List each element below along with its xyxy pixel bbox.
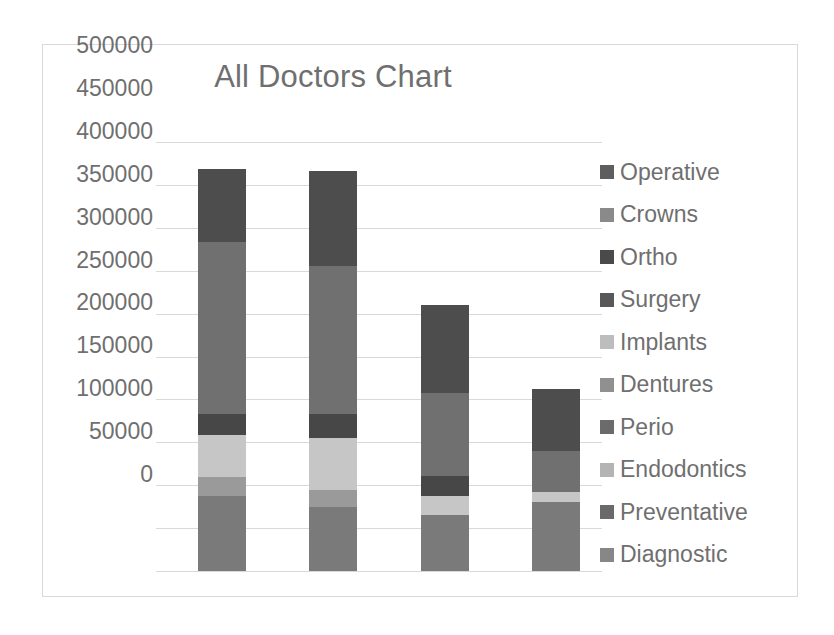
bar-column[interactable] [309, 171, 357, 571]
y-axis-tick-label: 50000 [43, 418, 153, 445]
y-axis-tick-label: 350000 [43, 160, 153, 187]
legend-item-label: Implants [620, 331, 707, 354]
chart-legend: OperativeCrownsOrthoSurgeryImplantsDentu… [600, 151, 790, 576]
bar-segment[interactable] [309, 490, 357, 507]
legend-item-label: Surgery [620, 288, 701, 311]
bar-segment[interactable] [309, 414, 357, 438]
legend-swatch-icon [600, 335, 614, 349]
bar-segment[interactable] [198, 477, 246, 496]
legend-item[interactable]: Endodontics [600, 449, 790, 492]
bar-segment[interactable] [421, 305, 469, 393]
y-axis-tick-label: 250000 [43, 246, 153, 273]
legend-swatch-icon [600, 293, 614, 307]
legend-swatch-icon [600, 548, 614, 562]
legend-swatch-icon [600, 378, 614, 392]
legend-item[interactable]: Surgery [600, 279, 790, 322]
legend-item[interactable]: Implants [600, 321, 790, 364]
bar-segment[interactable] [198, 435, 246, 476]
plot-area [156, 142, 602, 571]
bar-segment[interactable] [421, 515, 469, 571]
legend-item[interactable]: Diagnostic [600, 534, 790, 577]
chart-container: All Doctors Chart 5000004500004000003500… [42, 44, 798, 597]
y-axis-tick-label: 500000 [43, 32, 153, 59]
legend-swatch-icon [600, 250, 614, 264]
y-axis-tick-label: 150000 [43, 332, 153, 359]
legend-item-label: Preventative [620, 501, 748, 524]
legend-item[interactable]: Operative [600, 151, 790, 194]
y-axis-tick-label: 100000 [43, 375, 153, 402]
legend-item-label: Operative [620, 161, 720, 184]
legend-swatch-icon [600, 505, 614, 519]
legend-item-label: Diagnostic [620, 543, 727, 566]
bar-segment[interactable] [421, 476, 469, 497]
legend-item[interactable]: Ortho [600, 236, 790, 279]
bar-segment[interactable] [421, 393, 469, 476]
y-axis: 5000004500004000003500003000002500002000… [35, 45, 153, 474]
bar-column[interactable] [198, 169, 246, 571]
bar-column[interactable] [532, 389, 580, 571]
y-axis-tick-label: 450000 [43, 74, 153, 101]
legend-item-label: Ortho [620, 246, 678, 269]
legend-item-label: Crowns [620, 203, 698, 226]
bar-segment[interactable] [309, 507, 357, 571]
bar-segment[interactable] [309, 266, 357, 414]
legend-item[interactable]: Crowns [600, 194, 790, 237]
y-axis-tick-label: 300000 [43, 203, 153, 230]
legend-item[interactable]: Perio [600, 406, 790, 449]
legend-swatch-icon [600, 420, 614, 434]
bar-segment[interactable] [309, 438, 357, 489]
bar-segment[interactable] [198, 496, 246, 572]
legend-item-label: Dentures [620, 373, 713, 396]
gridline [156, 142, 602, 143]
bar-segment[interactable] [532, 492, 580, 502]
bar-segment[interactable] [421, 496, 469, 515]
legend-item[interactable]: Dentures [600, 364, 790, 407]
bar-segment[interactable] [532, 389, 580, 451]
legend-item-label: Perio [620, 416, 674, 439]
bar-segment[interactable] [532, 502, 580, 571]
legend-swatch-icon [600, 165, 614, 179]
bar-segment[interactable] [198, 169, 246, 242]
y-axis-tick-label: 200000 [43, 289, 153, 316]
gridline [156, 571, 602, 572]
bar-column[interactable] [421, 305, 469, 571]
legend-swatch-icon [600, 208, 614, 222]
bar-segment[interactable] [532, 451, 580, 492]
legend-item-label: Endodontics [620, 458, 747, 481]
bar-segment[interactable] [198, 414, 246, 435]
y-axis-tick-label: 0 [43, 461, 153, 488]
bar-segment[interactable] [309, 171, 357, 265]
legend-item[interactable]: Preventative [600, 491, 790, 534]
legend-swatch-icon [600, 463, 614, 477]
y-axis-tick-label: 400000 [43, 117, 153, 144]
bar-segment[interactable] [198, 242, 246, 414]
